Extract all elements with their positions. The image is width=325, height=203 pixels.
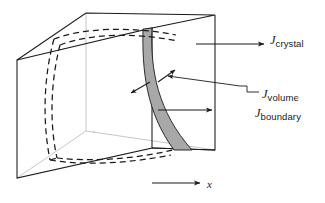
grain-boundary-cube-diagram: Jcrystal Jvolume Jboundary x <box>0 0 325 203</box>
scan-speck <box>93 131 95 133</box>
arrow-volume-out-right <box>158 70 175 82</box>
leader-line-volume <box>168 76 259 92</box>
label-j-volume: Jvolume <box>262 88 299 102</box>
label-j-boundary-subscript: boundary <box>261 111 301 122</box>
scan-speck <box>297 97 299 99</box>
label-x-axis: x <box>207 178 212 190</box>
label-j-volume-subscript: volume <box>268 92 299 103</box>
label-j-crystal-subscript: crystal <box>276 38 304 49</box>
label-j-crystal: Jcrystal <box>270 34 304 48</box>
grain-boundary-band <box>143 28 192 150</box>
label-j-boundary: Jboundary <box>255 107 301 121</box>
cube-hidden-edges <box>17 13 215 178</box>
cube-solid-edges <box>17 13 215 178</box>
